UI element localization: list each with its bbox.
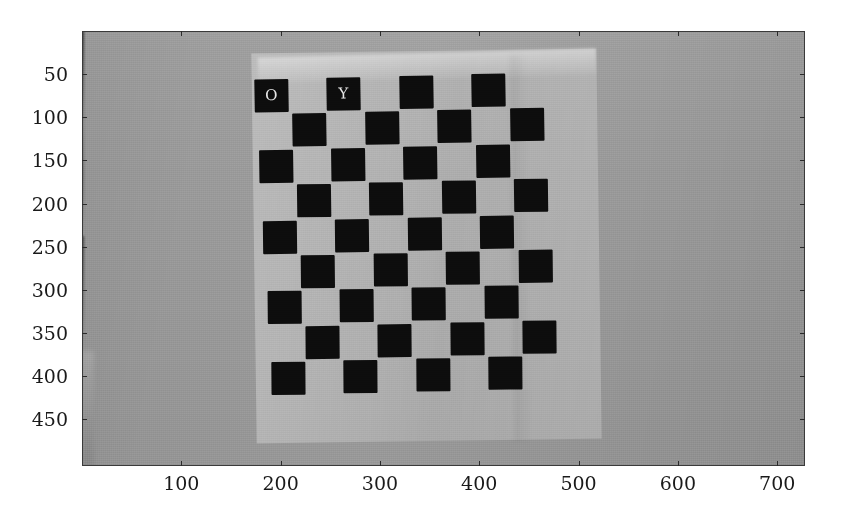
y-axis-tick xyxy=(82,333,87,334)
x-tick-label: 600 xyxy=(660,472,696,494)
x-axis-tick xyxy=(777,461,778,466)
y-tick-label: 100 xyxy=(0,106,68,128)
y-axis-tick xyxy=(82,117,87,118)
y-axis-tick xyxy=(800,247,805,248)
figure-canvas: OY 100200300400500600700 501001502002503… xyxy=(0,0,841,525)
x-axis-tick xyxy=(678,461,679,466)
x-axis-tick xyxy=(678,31,679,36)
y-axis-tick xyxy=(800,333,805,334)
y-axis-tick xyxy=(82,376,87,377)
y-tick-label: 400 xyxy=(0,365,68,387)
y-axis-tick xyxy=(800,290,805,291)
y-tick-label: 150 xyxy=(0,149,68,171)
y-axis-tick xyxy=(82,204,87,205)
y-tick-label: 50 xyxy=(0,63,68,85)
y-axis-tick xyxy=(800,376,805,377)
y-tick-label: 350 xyxy=(0,322,68,344)
y-tick-label: 300 xyxy=(0,279,68,301)
x-axis-tick xyxy=(281,461,282,466)
x-tick-label: 500 xyxy=(560,472,596,494)
x-axis-tick xyxy=(777,31,778,36)
y-axis-tick xyxy=(800,204,805,205)
x-tick-label: 400 xyxy=(461,472,497,494)
x-axis-tick xyxy=(479,31,480,36)
x-axis-tick xyxy=(479,461,480,466)
x-axis-tick xyxy=(380,31,381,36)
film-grain-overlay xyxy=(82,31,805,466)
y-axis-tick xyxy=(82,247,87,248)
x-axis-tick xyxy=(380,461,381,466)
x-axis-tick xyxy=(579,31,580,36)
y-axis-tick xyxy=(82,290,87,291)
y-tick-label: 450 xyxy=(0,408,68,430)
y-tick-labels: 50100150200250300350400450 xyxy=(0,0,68,525)
x-axis-tick xyxy=(579,461,580,466)
x-axis-tick xyxy=(281,31,282,36)
image-axes[interactable]: OY xyxy=(82,31,805,466)
y-axis-tick xyxy=(800,74,805,75)
y-axis-tick xyxy=(800,419,805,420)
y-tick-label: 250 xyxy=(0,236,68,258)
x-tick-label: 700 xyxy=(759,472,795,494)
y-axis-tick xyxy=(82,160,87,161)
x-axis-tick xyxy=(181,461,182,466)
y-axis-tick xyxy=(800,117,805,118)
y-axis-tick xyxy=(800,160,805,161)
x-axis-tick xyxy=(181,31,182,36)
y-axis-tick xyxy=(82,419,87,420)
x-tick-label: 300 xyxy=(362,472,398,494)
x-tick-label: 100 xyxy=(163,472,199,494)
y-tick-label: 200 xyxy=(0,193,68,215)
y-axis-tick xyxy=(82,74,87,75)
x-tick-label: 200 xyxy=(262,472,298,494)
